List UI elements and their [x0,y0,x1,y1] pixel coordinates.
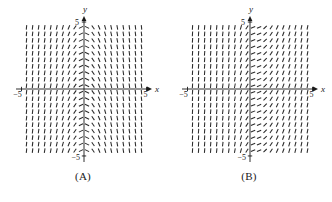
panel-a: −555−5xy (A) [0,0,166,202]
x-axis-name: x [154,84,159,94]
axes [16,16,152,162]
x-tick-label-right: 5 [144,90,148,99]
y-tick-label-bottom: −5 [237,153,246,162]
x-axis-name: x [320,84,325,94]
y-tick-label-bottom: −5 [71,153,80,162]
panel-a-caption: (A) [0,170,166,182]
slope-field-plot-a: −555−5xy [0,0,166,186]
y-tick-label-top: 5 [241,18,245,27]
y-axis-name: y [248,4,253,14]
y-tick-label-top: 5 [75,18,79,27]
y-axis-name: y [82,4,87,14]
axes [182,16,318,162]
slope-field-plot-b: −555−5xy [166,0,332,186]
x-tick-label-left: −5 [13,90,22,99]
x-tick-label-left: −5 [179,90,188,99]
x-tick-label-right: 5 [310,90,314,99]
slope-field-figure: −555−5xy (A) −555−5xy (B) [0,0,332,202]
panel-b: −555−5xy (B) [166,0,332,202]
panel-b-caption: (B) [166,170,332,182]
